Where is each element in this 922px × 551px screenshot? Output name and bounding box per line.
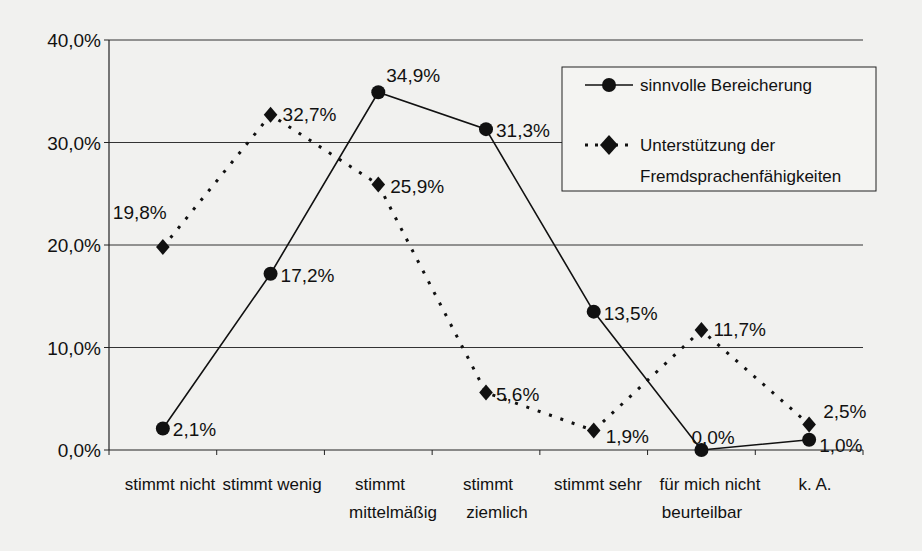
legend-circle-marker-icon — [602, 78, 616, 92]
circle-marker-icon — [264, 267, 278, 281]
data-label: 25,9% — [390, 176, 444, 197]
data-label: 34,9% — [386, 65, 440, 86]
diamond-marker-icon — [695, 322, 709, 338]
x-category-label: stimmt — [355, 475, 405, 494]
legend-label-2-line1: Unterstützung der — [640, 136, 775, 155]
diamond-marker-icon — [156, 239, 170, 255]
x-category-label: stimmt sehr — [554, 475, 642, 494]
circle-marker-icon — [802, 433, 816, 447]
data-label: 1,9% — [606, 426, 649, 447]
y-tick-label: 10,0% — [47, 338, 101, 359]
legend-label-2-line2: Fremdsprachenfähigkeiten — [640, 167, 841, 186]
x-category-label: für mich nicht — [659, 475, 760, 494]
chart-canvas: 0,0%10,0%20,0%30,0%40,0%stimmt nichtstim… — [0, 0, 922, 551]
x-category-label: ziemlich — [466, 503, 527, 522]
data-label: 17,2% — [281, 265, 335, 286]
x-category-label: mittelmäßig — [349, 503, 437, 522]
diamond-marker-icon — [479, 385, 493, 401]
legend-label-1: sinnvolle Bereicherung — [640, 76, 812, 95]
legend: sinnvolle Bereicherung Unterstützung der… — [562, 67, 876, 191]
circle-marker-icon — [156, 421, 170, 435]
circle-marker-icon — [479, 122, 493, 136]
x-category-label: stimmt — [463, 475, 513, 494]
x-category-label: stimmt wenig — [222, 475, 321, 494]
y-tick-label: 40,0% — [47, 30, 101, 51]
x-category-label: k. A. — [798, 475, 831, 494]
x-category-label: stimmt nicht — [125, 475, 216, 494]
data-label: 0,0% — [691, 427, 734, 448]
line-chart: 0,0%10,0%20,0%30,0%40,0%stimmt nichtstim… — [0, 0, 922, 551]
diamond-marker-icon — [587, 423, 601, 439]
data-label: 32,7% — [283, 104, 337, 125]
circle-marker-icon — [371, 85, 385, 99]
diamond-marker-icon — [264, 107, 278, 123]
data-label: 11,7% — [713, 319, 766, 340]
y-tick-label: 30,0% — [47, 133, 101, 154]
circle-marker-icon — [587, 305, 601, 319]
x-category-label: beurteilbar — [662, 503, 743, 522]
data-label: 2,1% — [173, 419, 216, 440]
diamond-marker-icon — [802, 416, 816, 432]
data-label: 5,6% — [496, 384, 539, 405]
y-tick-label: 0,0% — [58, 440, 101, 461]
data-label: 2,5% — [823, 401, 866, 422]
data-label: 1,0% — [819, 435, 862, 456]
data-label: 31,3% — [496, 120, 550, 141]
diamond-marker-icon — [371, 177, 385, 193]
y-tick-label: 20,0% — [47, 235, 101, 256]
data-label: 13,5% — [604, 303, 658, 324]
data-label: 19,8% — [113, 202, 167, 223]
